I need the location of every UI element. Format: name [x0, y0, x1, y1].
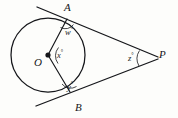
degree-symbol-z: °	[131, 52, 133, 58]
geometry-canvas	[0, 0, 178, 118]
degree-symbol-x: °	[61, 49, 63, 55]
angle-label-y: y°	[67, 81, 73, 91]
center-point-dot	[45, 52, 50, 57]
tangent-line-AP	[37, 7, 158, 57]
angle-label-z: z°	[128, 52, 134, 62]
point-label-O: O	[34, 57, 42, 68]
geometry-figure: A B O P w° x° y° z°	[0, 0, 178, 118]
point-label-P: P	[159, 49, 166, 60]
angle-arc-z	[137, 51, 139, 67]
degree-symbol-w: °	[71, 26, 73, 32]
point-label-B: B	[75, 102, 82, 113]
degree-symbol-y: °	[71, 81, 73, 87]
angle-label-w: w°	[65, 26, 73, 36]
angle-label-x: x°	[57, 49, 63, 59]
point-label-A: A	[64, 2, 71, 13]
